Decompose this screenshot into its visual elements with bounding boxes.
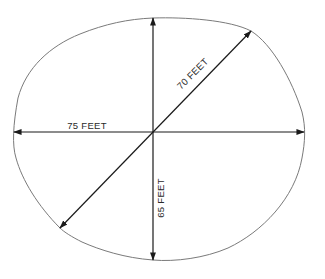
vertical-dimension-label: 65 FEET (155, 178, 166, 218)
measurement-diagram: 75 FEET 70 FEET 65 FEET (0, 0, 325, 279)
diagonal-dimension-label: 70 FEET (175, 56, 211, 92)
oval-outline (14, 18, 305, 261)
diagram-canvas: 75 FEET 70 FEET 65 FEET (0, 0, 325, 279)
horizontal-dimension-label: 75 FEET (67, 120, 107, 131)
